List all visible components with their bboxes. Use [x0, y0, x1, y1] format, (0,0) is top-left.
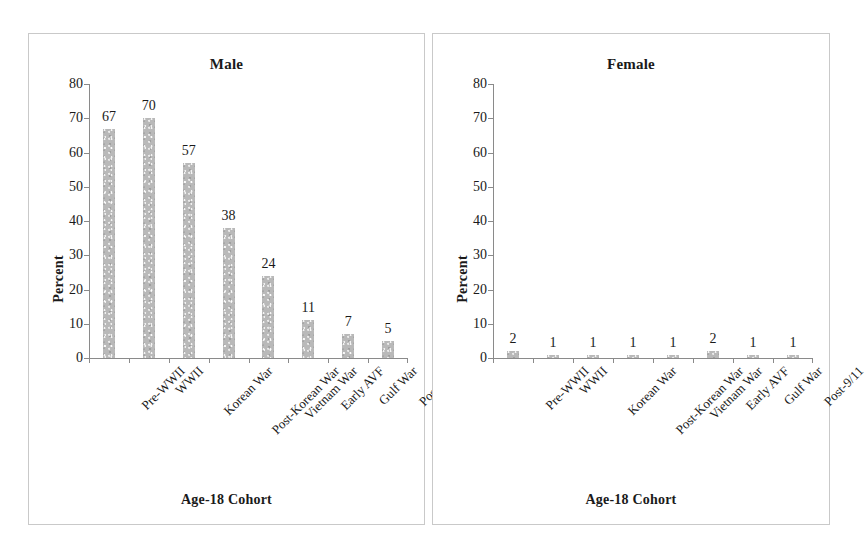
y-tick-label-male-80: 80	[43, 77, 83, 91]
y-tick-label-male-30: 30	[43, 248, 83, 262]
bar[interactable]	[667, 355, 679, 358]
bar[interactable]	[103, 129, 115, 358]
x-tick-mark	[368, 358, 369, 363]
bar-group: 11	[288, 84, 328, 358]
x-tick-mark	[773, 358, 774, 363]
x-tick-mark	[653, 358, 654, 363]
bar-group: 2	[693, 84, 733, 358]
bar-value-label: 67	[102, 110, 116, 124]
bar[interactable]	[507, 351, 519, 358]
bar-group: 1	[533, 84, 573, 358]
x-tick-label: Korean War	[625, 364, 678, 417]
x-axis-title-female: Age-18 Cohort	[433, 492, 829, 508]
y-tick-label-female-0: 0	[447, 351, 487, 365]
bar-value-label: 38	[222, 209, 236, 223]
bar-group: 5	[368, 84, 408, 358]
chart-panel-female: Female Percent 010203040506070802Pre-WWI…	[432, 33, 830, 525]
x-tick-mark	[209, 358, 210, 363]
x-tick-label: Post-9/11	[821, 364, 865, 408]
plot-area-male: 0102030405060708067Pre-WWII70WWII57Korea…	[89, 84, 408, 358]
bar[interactable]	[587, 355, 599, 358]
y-tick-label-male-20: 20	[43, 283, 83, 297]
bar[interactable]	[547, 355, 559, 358]
bar-group: 1	[653, 84, 693, 358]
x-tick-mark	[733, 358, 734, 363]
bar[interactable]	[787, 355, 799, 358]
bar[interactable]	[302, 320, 314, 358]
bar-group: 1	[613, 84, 653, 358]
chart-title-female: Female	[433, 56, 829, 73]
y-tick-label-female-20: 20	[447, 283, 487, 297]
bar-group: 67	[89, 84, 129, 358]
x-tick-mark	[328, 358, 329, 363]
y-tick-label-male-50: 50	[43, 180, 83, 194]
bar[interactable]	[262, 276, 274, 358]
x-tick-mark	[573, 358, 574, 363]
bar-value-label: 1	[630, 336, 637, 350]
chart-panel-male: Male Percent 0102030405060708067Pre-WWII…	[28, 33, 425, 525]
y-tick-label-female-60: 60	[447, 146, 487, 160]
bar-value-label: 1	[750, 336, 757, 350]
bar-group: 2	[493, 84, 533, 358]
bar-group: 1	[773, 84, 813, 358]
bar-group: 24	[249, 84, 289, 358]
x-tick-mark	[407, 358, 408, 363]
y-tick-label-male-60: 60	[43, 146, 83, 160]
x-tick-mark	[169, 358, 170, 363]
chart-title-male: Male	[29, 56, 424, 73]
y-tick-label-male-0: 0	[43, 351, 83, 365]
bar-value-label: 5	[385, 322, 392, 336]
x-tick-mark	[493, 358, 494, 363]
x-axis-title-male: Age-18 Cohort	[29, 492, 424, 508]
plot-area-female: 010203040506070802Pre-WWII1WWII1Korean W…	[493, 84, 813, 358]
y-tick-label-female-50: 50	[447, 180, 487, 194]
x-tick-mark	[129, 358, 130, 363]
bar-group: 57	[169, 84, 209, 358]
bar-value-label: 1	[790, 336, 797, 350]
y-tick-label-male-70: 70	[43, 111, 83, 125]
bar-group: 1	[573, 84, 613, 358]
bar[interactable]	[747, 355, 759, 358]
y-tick-label-female-10: 10	[447, 317, 487, 331]
x-tick-mark	[533, 358, 534, 363]
y-tick-label-female-70: 70	[447, 111, 487, 125]
bar-value-label: 11	[302, 301, 315, 315]
bar[interactable]	[143, 118, 155, 358]
x-tick-mark	[288, 358, 289, 363]
y-tick-label-female-30: 30	[447, 248, 487, 262]
bar-value-label: 7	[345, 315, 352, 329]
x-tick-mark	[89, 358, 90, 363]
bar[interactable]	[342, 334, 354, 358]
x-tick-mark	[249, 358, 250, 363]
x-tick-mark	[693, 358, 694, 363]
y-tick-label-male-40: 40	[43, 214, 83, 228]
bar-value-label: 1	[670, 336, 677, 350]
y-tick-label-female-40: 40	[447, 214, 487, 228]
x-tick-mark	[613, 358, 614, 363]
bar-value-label: 70	[142, 99, 156, 113]
bar[interactable]	[223, 228, 235, 358]
bar-group: 1	[733, 84, 773, 358]
bar-value-label: 57	[182, 144, 196, 158]
bar-value-label: 2	[710, 332, 717, 346]
bar-value-label: 2	[510, 332, 517, 346]
x-tick-mark	[812, 358, 813, 363]
bar-value-label: 1	[590, 336, 597, 350]
bar-value-label: 24	[261, 257, 275, 271]
bar-group: 7	[328, 84, 368, 358]
bar[interactable]	[183, 163, 195, 358]
bar-group: 70	[129, 84, 169, 358]
bar[interactable]	[627, 355, 639, 358]
y-tick-label-male-10: 10	[43, 317, 83, 331]
bar-value-label: 1	[550, 336, 557, 350]
bar-group: 38	[209, 84, 249, 358]
bar[interactable]	[382, 341, 394, 358]
x-tick-label: Korean War	[221, 364, 274, 417]
bar[interactable]	[707, 351, 719, 358]
y-tick-label-female-80: 80	[447, 77, 487, 91]
